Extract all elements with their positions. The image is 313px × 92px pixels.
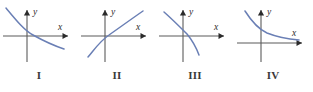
y-axis-arrow-icon: [258, 10, 264, 16]
y-axis-label: y: [188, 7, 194, 17]
x-axis-arrow-icon: [297, 40, 303, 46]
graph-panel-i: xyI: [0, 0, 78, 92]
y-axis-arrow-icon: [24, 10, 30, 16]
curve: [164, 12, 199, 55]
panel-caption: I: [0, 68, 78, 82]
y-axis-label: y: [110, 7, 116, 17]
y-axis-label: y: [32, 7, 38, 17]
x-axis-label: x: [57, 22, 63, 32]
curve: [245, 11, 299, 40]
y-axis-label: y: [266, 7, 272, 17]
graph-panel-iii: xyIII: [156, 0, 234, 92]
panel-caption: II: [78, 68, 156, 82]
panel-caption: III: [156, 68, 234, 82]
x-axis-label: x: [135, 22, 141, 32]
graph-plot: xy: [0, 0, 78, 70]
graph-plot: xy: [156, 0, 234, 70]
x-axis-arrow-icon: [63, 33, 69, 39]
x-axis-label: x: [213, 22, 219, 32]
y-axis-arrow-icon: [102, 10, 108, 16]
graph-panel-iv: xyIV: [234, 0, 312, 92]
graph-figure: xyIxyIIxyIIIxyIV: [0, 0, 313, 92]
y-axis-arrow-icon: [180, 10, 186, 16]
x-axis-arrow-icon: [141, 33, 147, 39]
x-axis-arrow-icon: [219, 33, 225, 39]
curve: [88, 11, 143, 57]
graph-plot: xy: [78, 0, 156, 70]
graph-plot: xy: [234, 0, 312, 70]
graph-panel-ii: xyII: [78, 0, 156, 92]
x-axis-label: x: [291, 28, 297, 38]
panel-caption: IV: [234, 68, 312, 82]
